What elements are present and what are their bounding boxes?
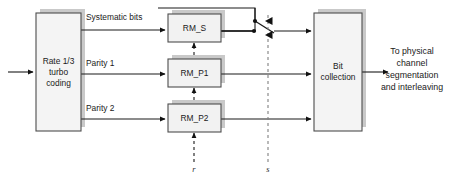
systematic-bits-label: Systematic bits	[86, 12, 142, 22]
turbo-coding-label-line-2: turbo	[49, 67, 68, 77]
switch-ctrl-arrow-upper	[265, 17, 273, 25]
bit-collection-label-line-1: Bit	[333, 61, 343, 71]
output-label-line-1: To physical	[390, 46, 434, 56]
rm-p1-label: RM_P1	[181, 68, 209, 78]
output-label-line-3: segmentation	[386, 70, 439, 80]
r-control-label: r	[192, 165, 196, 174]
rm-p2-label: RM_P2	[181, 113, 209, 123]
rate-matching-diagram: Rate 1/3 turbo coding RM_S RM_P1 RM_P2 B…	[0, 0, 457, 179]
turbo-coding-label-line-3: coding	[46, 78, 71, 88]
output-label-line-2: channel	[397, 58, 428, 68]
switch-lower-pole	[252, 29, 256, 33]
bit-collection-label-line-2: collection	[321, 72, 356, 82]
switch-upper-pole	[253, 19, 257, 23]
control-labels: r s	[192, 165, 269, 174]
switch-ctrl-arrow-lower	[265, 31, 273, 39]
edge-labels: Systematic bits Parity 1 Parity 2	[86, 12, 142, 113]
parity-2-label: Parity 2	[86, 103, 115, 113]
parity-1-label: Parity 1	[86, 58, 115, 68]
output-label-line-4: and interleaving	[381, 82, 443, 92]
s-control-label: s	[266, 165, 269, 174]
turbo-coding-label-line-1: Rate 1/3	[43, 56, 75, 66]
diagram-canvas: Rate 1/3 turbo coding RM_S RM_P1 RM_P2 B…	[0, 0, 457, 179]
output-destination-label: To physical channel segmentation and int…	[381, 46, 443, 92]
rm-s-label: RM_S	[183, 23, 207, 33]
